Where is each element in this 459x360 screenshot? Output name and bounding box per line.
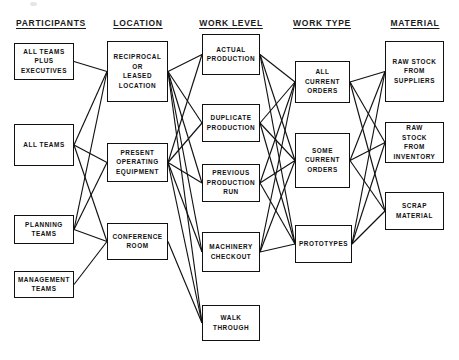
edge-reciprocal_or_leased_location--actual_production <box>168 55 202 72</box>
node-label-line: SUPPLIERS <box>394 78 435 84</box>
node-all_teams[interactable]: ALL TEAMS <box>14 124 74 166</box>
edge-all_current_orders--scrap_material <box>350 82 385 211</box>
edge-machinery_checkout--some_current_orders <box>260 161 295 253</box>
node-label-line: ROOM <box>126 243 148 249</box>
node-label-line: LEASED <box>123 73 152 79</box>
edge-all_teams_plus_exec--reciprocal_or_leased_location <box>74 62 107 72</box>
node-label-line: LOCATION <box>119 83 156 89</box>
node-label-line: PRODUCTION <box>207 180 255 186</box>
edge-previous_production_run--prototypes <box>260 183 295 244</box>
node-label-line: ORDERS <box>307 167 338 173</box>
node-label-line: MANAGEMENT <box>18 277 70 283</box>
edge-planning_teams--conference_room <box>74 230 107 242</box>
node-label-line: ORDERS <box>307 88 338 94</box>
node-label-line: ALL TEAMS <box>23 142 64 148</box>
node-scrap_material[interactable]: SCRAPMATERIAL <box>385 192 444 230</box>
node-label-line: CONFERENCE <box>112 234 162 240</box>
node-label-line: OPERATING <box>116 159 158 165</box>
node-label-line: RUN <box>223 189 239 195</box>
node-label-line: THROUGH <box>213 325 249 331</box>
node-label-line: PLANNING <box>25 222 63 228</box>
node-label-line: SOME <box>312 148 333 154</box>
edge-management_teams--conference_room <box>74 242 107 285</box>
edge-duplicate_production--some_current_orders <box>260 123 295 161</box>
node-reciprocal_or_leased_location[interactable]: RECIPROCALORLEASEDLOCATION <box>107 41 168 102</box>
edge-present_operating_equipment--walk_through <box>168 163 202 324</box>
edge-reciprocal_or_leased_location--previous_production_run <box>168 72 202 184</box>
node-label-line: CURRENT <box>305 157 340 163</box>
node-conference_room[interactable]: CONFERENCEROOM <box>107 223 168 260</box>
node-prototypes[interactable]: PROTOTYPES <box>295 225 352 263</box>
node-label-line: TEAMS <box>31 231 56 237</box>
node-label-line: FROM <box>404 68 425 74</box>
edge-all_teams--reciprocal_or_leased_location <box>74 72 107 146</box>
node-label-line: PRODUCTION <box>207 56 255 62</box>
edge-planning_teams--reciprocal_or_leased_location <box>74 72 107 230</box>
edge-machinery_checkout--prototypes <box>260 244 295 252</box>
edge-previous_production_run--all_current_orders <box>260 82 295 183</box>
edge-prototypes--scrap_material <box>352 211 385 244</box>
edge-reciprocal_or_leased_location--walk_through <box>168 72 202 324</box>
node-label-line: ALL <box>315 69 329 75</box>
node-label-line: FROM <box>404 144 425 150</box>
column-header-participants: PARTICIPANTS <box>16 18 86 28</box>
edge-present_operating_equipment--actual_production <box>168 55 202 163</box>
node-label-line: CHECKOUT <box>211 254 252 260</box>
node-label-line: WALK <box>220 315 241 321</box>
edge-present_operating_equipment--duplicate_production <box>168 123 202 163</box>
edge-all_current_orders--raw_stock_from_inventory <box>350 82 385 143</box>
node-raw_stock_from_suppliers[interactable]: RAW STOCKFROMSUPPLIERS <box>385 41 444 102</box>
node-label-line: PROTOTYPES <box>299 241 348 247</box>
edge-prototypes--raw_stock_from_suppliers <box>352 72 385 245</box>
scan-artifact <box>30 2 37 6</box>
node-all_current_orders[interactable]: ALLCURRENTORDERS <box>295 61 350 103</box>
node-previous_production_run[interactable]: PREVIOUSPRODUCTIONRUN <box>202 164 260 202</box>
edge-prototypes--raw_stock_from_inventory <box>352 143 385 245</box>
edge-some_current_orders--raw_stock_from_suppliers <box>350 72 385 161</box>
node-label-line: PLUS <box>34 58 53 64</box>
node-label-line: STOCK <box>402 135 427 141</box>
edge-actual_production--all_current_orders <box>260 55 295 83</box>
edge-present_operating_equipment--machinery_checkout <box>168 163 202 253</box>
edge-actual_production--prototypes <box>260 55 295 245</box>
node-raw_stock_from_inventory[interactable]: RAWSTOCKFROMINVENTORY <box>385 122 444 163</box>
node-label-line: PREVIOUS <box>212 170 249 176</box>
node-some_current_orders[interactable]: SOMECURRENTORDERS <box>295 133 350 188</box>
node-present_operating_equipment[interactable]: PRESENTOPERATINGEQUIPMENT <box>107 143 168 182</box>
node-label-line: TEAMS <box>31 286 56 292</box>
edge-actual_production--some_current_orders <box>260 55 295 161</box>
edge-conference_room--walk_through <box>168 242 202 324</box>
edge-some_current_orders--raw_stock_from_inventory <box>350 143 385 161</box>
node-all_teams_plus_exec[interactable]: ALL TEAMSPLUSEXECUTIVES <box>14 43 74 80</box>
edge-duplicate_production--all_current_orders <box>260 82 295 123</box>
edge-all_teams--present_operating_equipment <box>74 145 107 163</box>
edge-present_operating_equipment--previous_production_run <box>168 163 202 184</box>
edge-all_current_orders--raw_stock_from_suppliers <box>350 72 385 83</box>
node-label-line: ALL TEAMS <box>23 49 64 55</box>
diagram-canvas: PARTICIPANTSLOCATIONWORK LEVELWORK TYPEM… <box>0 0 459 360</box>
column-header-work_type: WORK TYPE <box>293 18 351 28</box>
column-header-work_level: WORK LEVEL <box>199 18 263 28</box>
node-label-line: PRESENT <box>120 150 154 156</box>
node-label-line: SCRAP <box>402 203 427 209</box>
node-actual_production[interactable]: ACTUALPRODUCTION <box>202 34 260 75</box>
node-label-line: DUPLICATE <box>210 115 251 121</box>
node-label-line: RAW STOCK <box>393 59 437 65</box>
edge-planning_teams--present_operating_equipment <box>74 163 107 230</box>
column-header-material: MATERIAL <box>391 18 440 28</box>
edge-previous_production_run--some_current_orders <box>260 161 295 184</box>
node-management_teams[interactable]: MANAGEMENTTEAMS <box>14 271 74 298</box>
node-label-line: OR <box>132 64 143 70</box>
edge-machinery_checkout--all_current_orders <box>260 82 295 252</box>
edge-duplicate_production--prototypes <box>260 123 295 244</box>
node-walk_through[interactable]: WALKTHROUGH <box>202 305 260 341</box>
node-machinery_checkout[interactable]: MACHINERYCHECKOUT <box>202 232 260 272</box>
node-label-line: ACTUAL <box>216 47 246 53</box>
column-header-location: LOCATION <box>113 18 162 28</box>
node-label-line: PRODUCTION <box>207 125 255 131</box>
edge-reciprocal_or_leased_location--duplicate_production <box>168 72 202 124</box>
node-label-line: MACHINERY <box>209 244 252 250</box>
edge-all_teams--conference_room <box>74 145 107 242</box>
node-planning_teams[interactable]: PLANNINGTEAMS <box>14 215 74 244</box>
node-duplicate_production[interactable]: DUPLICATEPRODUCTION <box>202 104 260 142</box>
